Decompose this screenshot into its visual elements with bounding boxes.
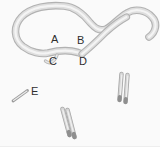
small-rod-e bbox=[13, 91, 28, 102]
bottom-strip bbox=[0, 146, 160, 155]
paired-rods-bottom bbox=[63, 109, 75, 137]
label-c: C bbox=[49, 56, 57, 67]
label-b: B bbox=[77, 35, 84, 46]
label-e: E bbox=[31, 86, 38, 97]
label-d: D bbox=[79, 56, 87, 67]
paired-rods-right bbox=[120, 74, 128, 102]
label-a: A bbox=[51, 34, 58, 45]
diagram-artwork bbox=[0, 0, 160, 155]
figure-canvas: A B C D E bbox=[0, 0, 160, 155]
